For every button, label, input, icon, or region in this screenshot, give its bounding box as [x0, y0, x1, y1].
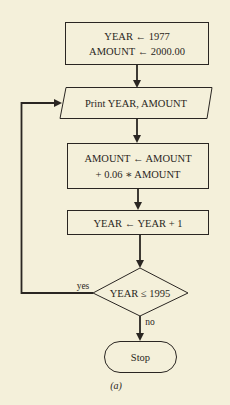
init-line-2: AMOUNT ← 2000.00: [89, 46, 185, 57]
edge-print-to-update: [133, 119, 141, 143]
yes-label: yes: [77, 281, 90, 291]
edge-decision-no-to-stop: no: [136, 316, 155, 341]
update-line-1: AMOUNT ← AMOUNT: [84, 153, 192, 164]
stop-label: Stop: [131, 352, 150, 363]
edge-increment-to-decision: [136, 235, 144, 268]
no-label: no: [145, 317, 155, 327]
print-io-box: Print YEAR, AMOUNT: [60, 88, 212, 119]
print-label: Print YEAR, AMOUNT: [85, 98, 188, 109]
increment-year-box: YEAR ← YEAR + 1: [68, 211, 209, 235]
edge-update-to-increment: [134, 189, 142, 210]
edge-decision-yes-to-print: yes: [22, 99, 94, 293]
decision-diamond: YEAR ≤ 1995: [93, 268, 188, 316]
update-box-shape: [68, 144, 209, 189]
init-line-1: YEAR ← 1977: [104, 31, 169, 42]
figure-caption: (a): [110, 380, 122, 392]
decision-label: YEAR ≤ 1995: [110, 288, 171, 299]
init-box-shape: [66, 23, 209, 65]
init-process-box: YEAR ← 1977 AMOUNT ← 2000.00: [66, 23, 209, 65]
flowchart: YEAR ← 1977 AMOUNT ← 2000.00 Print YEAR,…: [0, 0, 230, 405]
update-amount-box: AMOUNT ← AMOUNT + 0.06 ∗ AMOUNT: [68, 144, 209, 189]
stop-terminal: Stop: [105, 342, 177, 373]
edge-init-to-print: [133, 65, 141, 88]
update-line-2: + 0.06 ∗ AMOUNT: [96, 169, 181, 180]
increment-label: YEAR ← YEAR + 1: [94, 218, 183, 229]
